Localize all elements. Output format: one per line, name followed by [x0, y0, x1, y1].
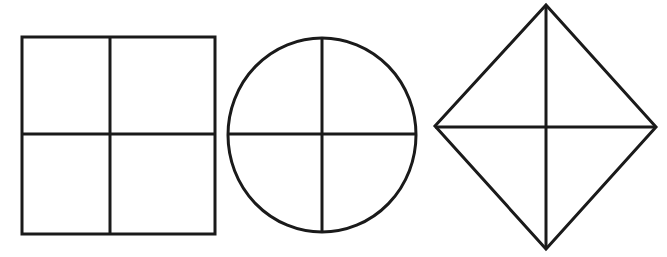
- square-quadrant-top-left: [23, 38, 109, 133]
- diamond-divided-in-fourths: [435, 5, 656, 249]
- square-quadrant-top-right: [112, 38, 214, 133]
- shapes-illustration: [0, 0, 667, 257]
- figure-canvas: [0, 0, 667, 257]
- circle-divided-in-fourths: [228, 38, 416, 232]
- square-divided-in-fourths: [22, 37, 215, 234]
- square-quadrant-bottom-right: [112, 136, 214, 233]
- square-quadrant-bottom-left: [23, 136, 109, 233]
